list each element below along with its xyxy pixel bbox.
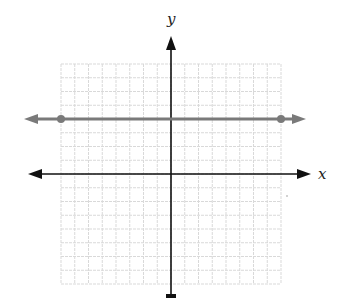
series-right-arrow-icon	[292, 114, 306, 124]
data-point	[277, 115, 285, 123]
y-axis-up-arrow-icon	[166, 36, 176, 50]
data-point	[57, 115, 65, 123]
y-axis-bottom-end	[166, 294, 176, 298]
series-left-arrow-icon	[24, 114, 38, 124]
axes: x y	[28, 10, 327, 298]
x-axis-left-arrow-icon	[28, 169, 42, 179]
coordinate-plane: x y	[0, 0, 342, 298]
speck	[286, 195, 288, 197]
y-axis-label: y	[166, 10, 176, 28]
graphed-line-y-equals-4	[24, 114, 306, 124]
x-axis-label: x	[318, 165, 327, 183]
x-axis-right-arrow-icon	[297, 169, 311, 179]
